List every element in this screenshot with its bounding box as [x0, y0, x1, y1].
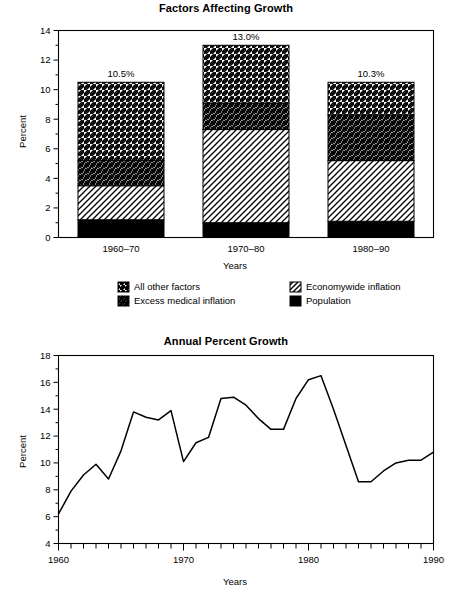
line-chart-canvas: 4681012141618 1960197019801990: [0, 328, 452, 578]
legend-swatch: [118, 282, 129, 292]
bar-segment: [78, 186, 164, 220]
line-x-tick-label: 1980: [298, 554, 319, 565]
bar-category-label: 1960–70: [103, 243, 140, 254]
bar-y-tick-label: 4: [45, 173, 50, 184]
bar-segment: [328, 82, 414, 115]
bar-y-tick-label: 0: [45, 232, 50, 243]
legend-label: Excess medical inflation: [134, 295, 235, 306]
bar-y-tick-label: 14: [40, 25, 51, 36]
bar-category-label: 1970–80: [228, 243, 265, 254]
line-y-tick-label: 16: [40, 377, 51, 388]
report-page: Factors Affecting Growth: [0, 0, 452, 607]
line-plot-frame: [59, 356, 434, 544]
bar-segment: [203, 130, 289, 223]
bar-segment: [78, 220, 164, 238]
bar-x-axis-label: Years: [9, 260, 452, 271]
line-x-tick-label: 1970: [173, 554, 194, 565]
bar-y-tick-label: 6: [45, 143, 50, 154]
line-x-axis: 1960197019801990: [48, 544, 444, 565]
line-x-tick-label: 1960: [48, 554, 69, 565]
bar-segment: [78, 161, 164, 186]
legend-label: Economywide inflation: [306, 281, 401, 292]
bar-segment: [328, 221, 414, 237]
bar-total-label: 13.0%: [233, 31, 260, 42]
bar-chart-figure: Factors Affecting Growth: [0, 0, 452, 320]
bar-category-label: 1980–90: [353, 243, 390, 254]
line-y-axis: 4681012141618: [40, 350, 59, 549]
line-y-tick-label: 18: [40, 350, 51, 361]
bar-y-axis-label: Percent: [17, 102, 28, 162]
bar-y-tick-label: 12: [40, 54, 51, 65]
bar-segment: [203, 223, 289, 238]
growth-line-series: [59, 376, 434, 514]
line-chart-figure: Annual Percent Growth 4681012141618 1960…: [0, 328, 452, 607]
bar-category-labels: 1960–701970–801980–90: [103, 243, 390, 254]
bar-segment: [328, 161, 414, 222]
line-x-axis-label: Years: [9, 576, 452, 587]
bar-segment: [78, 82, 164, 160]
bar-segment: [328, 115, 414, 161]
legend-swatch: [290, 282, 301, 292]
line-y-tick-label: 10: [40, 457, 51, 468]
bar-segment: [203, 45, 289, 103]
line-y-tick-label: 4: [45, 538, 50, 549]
bar-y-tick-label: 2: [45, 202, 50, 213]
legend-label: All other factors: [134, 281, 200, 292]
bar-total-label: 10.5%: [108, 68, 135, 79]
bar-y-tick-label: 8: [45, 114, 50, 125]
legend-label: Population: [306, 295, 351, 306]
legend-swatch: [118, 296, 129, 306]
line-y-tick-label: 14: [40, 404, 51, 415]
legend-swatch: [290, 296, 301, 306]
bar-chart-title: Factors Affecting Growth: [0, 2, 452, 14]
line-x-tick-label: 1990: [423, 554, 444, 565]
line-y-axis-label: Percent: [17, 422, 28, 482]
line-y-tick-label: 8: [45, 484, 50, 495]
bar-total-label: 10.3%: [358, 68, 385, 79]
bar-legend: All other factorsEconomywide inflationEx…: [118, 281, 401, 306]
bar-y-tick-label: 10: [40, 84, 51, 95]
line-y-tick-label: 6: [45, 511, 50, 522]
line-chart-title: Annual Percent Growth: [0, 335, 452, 347]
bar-y-axis: 02468101214: [40, 25, 59, 243]
bar-segment: [203, 103, 289, 130]
bar-chart-canvas: 02468101214 10.5%13.0%10.3% 1960–701970–…: [0, 0, 452, 320]
line-y-tick-label: 12: [40, 430, 51, 441]
